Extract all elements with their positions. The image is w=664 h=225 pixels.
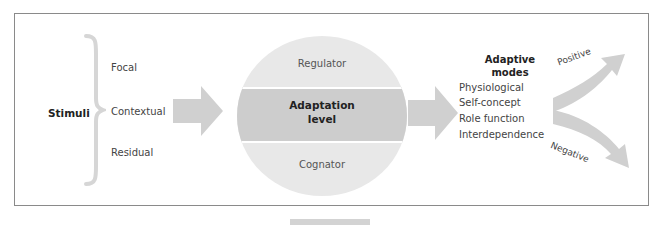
adaptive-modes-title-line2: modes: [470, 66, 550, 79]
figure-caption-cutoff: [290, 219, 370, 225]
input-arrow-icon: [173, 84, 225, 138]
adaptive-modes-title: Adaptive modes: [470, 53, 550, 79]
mode-physiological: Physiological: [459, 82, 524, 93]
stimulus-focal: Focal: [111, 62, 137, 73]
brace-icon: [84, 34, 106, 186]
adaptation-circle: Regulator Adaptation level Cognator: [237, 36, 407, 196]
cognator-label: Cognator: [237, 159, 407, 170]
negative-arrow-icon: [553, 110, 629, 168]
adaptation-level-line1: Adaptation: [237, 98, 407, 112]
stimulus-contextual: Contextual: [111, 106, 165, 117]
outcome-arrows: [545, 50, 664, 180]
output-arrow-icon: [408, 84, 460, 142]
stimulus-residual: Residual: [111, 147, 153, 158]
mode-role-function: Role function: [459, 113, 525, 124]
regulator-label: Regulator: [237, 58, 407, 69]
mode-self-concept: Self-concept: [459, 97, 521, 108]
adaptive-modes-title-line1: Adaptive: [470, 53, 550, 66]
adaptation-level-line2: level: [237, 112, 407, 126]
mode-interdependence: Interdependence: [459, 129, 544, 140]
